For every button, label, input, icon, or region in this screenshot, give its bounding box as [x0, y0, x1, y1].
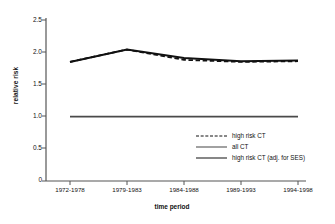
chart-legend: high risk CT all CT high risk CT (adj. f…	[196, 130, 305, 163]
thin-line-swatch-icon	[196, 142, 227, 151]
x-tick-label: 1994-1998	[283, 186, 313, 193]
legend-label: all CT	[232, 143, 248, 150]
x-axis-title: time period	[46, 203, 298, 210]
x-tick-marks	[70, 181, 298, 185]
dashed-line-swatch-icon	[196, 131, 227, 140]
x-tick-label: 1984-1988	[169, 186, 199, 193]
x-tick-label: 1989-1993	[226, 186, 256, 193]
legend-label: high risk CT (adj. for SES)	[232, 154, 305, 161]
legend-item-all-ct: all CT	[196, 141, 305, 152]
x-tick-label: 1972-1978	[55, 186, 85, 193]
x-tick-label: 1979-1983	[112, 186, 142, 193]
chart-container: relative risk 2.5 2.0 1.5 1.0 0.5 0	[0, 0, 335, 224]
thick-line-swatch-icon	[196, 153, 227, 162]
legend-item-high-risk-ct-adj: high risk CT (adj. for SES)	[196, 152, 305, 163]
legend-label: high risk CT	[232, 132, 266, 139]
legend-item-high-risk-ct: high risk CT	[196, 130, 305, 141]
